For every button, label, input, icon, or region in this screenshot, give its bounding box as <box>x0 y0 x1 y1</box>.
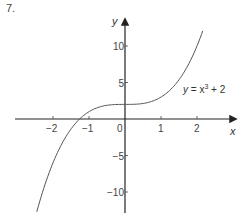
y-tick-label: 5 <box>118 78 124 89</box>
x-tick-label: −1 <box>82 123 94 134</box>
x-axis-label: x <box>229 125 236 137</box>
curve-y-equals-x-cubed-plus-2 <box>37 31 203 212</box>
y-tick-label: −10 <box>107 187 124 198</box>
y-axis-label: y <box>111 15 119 27</box>
x-tick-label: 0 <box>117 123 123 134</box>
x-tick-label: −2 <box>46 123 58 134</box>
x-tick-label: 2 <box>194 123 200 134</box>
x-tick-label: 1 <box>158 123 164 134</box>
y-tick-label: 10 <box>113 41 125 52</box>
cubic-function-graph: −2−1012 105−5−10 x y y = x3 + 2 <box>0 0 243 214</box>
curve-label: y = x3 + 2 <box>182 83 226 95</box>
y-tick-label: −5 <box>113 151 125 162</box>
